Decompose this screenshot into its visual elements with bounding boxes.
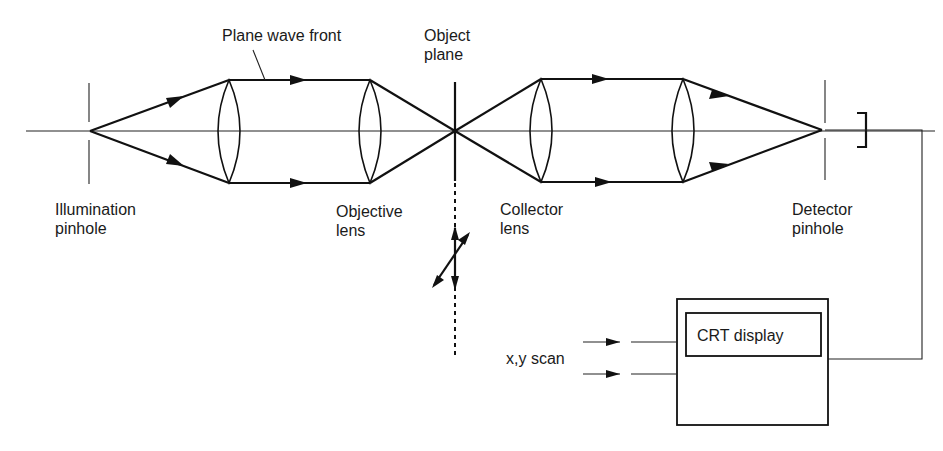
- label-detector-2: pinhole: [792, 220, 844, 237]
- label-illumination-1: Illumination: [55, 201, 136, 218]
- arrow-down-icon: [451, 276, 459, 290]
- arrow-icon: [592, 74, 609, 84]
- label-xy-scan: x,y scan: [506, 350, 565, 367]
- ray-upper-1: [90, 80, 229, 131]
- label-object-plane-2: plane: [424, 46, 463, 63]
- arrow-up-icon: [451, 226, 459, 240]
- ray-lower-1: [90, 131, 229, 183]
- arrow-icon: [166, 154, 184, 166]
- plane-wave-front-pointer: [253, 50, 265, 80]
- arrow-icon: [606, 338, 620, 346]
- ray-lower-3: [370, 131, 455, 183]
- crt-unit-box: [677, 299, 828, 425]
- ray-lower-4: [455, 131, 541, 182]
- label-detector-1: Detector: [792, 201, 853, 218]
- signal-wire: [825, 130, 922, 359]
- label-plane-wave-front: Plane wave front: [222, 27, 342, 44]
- arrow-diagonal-down-icon: [432, 275, 444, 288]
- ray-upper-6: [683, 79, 822, 130]
- arrow-diagonal-up-icon: [458, 232, 470, 245]
- arrow-icon: [606, 370, 620, 378]
- label-collector-1: Collector: [500, 201, 564, 218]
- ray-upper-4: [455, 79, 541, 131]
- label-illumination-2: pinhole: [55, 220, 107, 237]
- arrow-icon: [290, 178, 307, 188]
- label-objective-1: Objective: [336, 203, 403, 220]
- ray-lower-6: [683, 130, 822, 182]
- label-crt-display: CRT display: [697, 327, 784, 344]
- arrow-icon: [595, 177, 612, 187]
- label-collector-2: lens: [500, 220, 529, 237]
- ray-upper-3: [370, 80, 455, 131]
- confocal-diagram: Plane wave front Object plane Illuminati…: [0, 0, 943, 451]
- label-object-plane-1: Object: [424, 27, 471, 44]
- arrow-icon: [166, 96, 184, 108]
- label-objective-2: lens: [336, 222, 365, 239]
- arrow-icon: [290, 75, 307, 85]
